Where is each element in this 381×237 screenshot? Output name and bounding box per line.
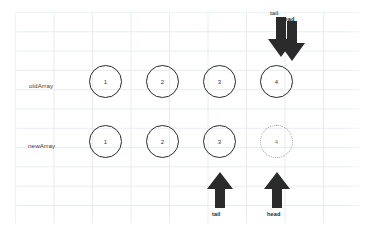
graph-paper-grid xyxy=(15,12,361,224)
head-pointer-label-bottom: head xyxy=(267,211,280,217)
tail-pointer-arrow-up xyxy=(207,172,233,208)
node-value: 4 xyxy=(275,139,278,145)
node-value: 2 xyxy=(161,79,164,85)
node-value: 4 xyxy=(275,79,278,85)
diagram-canvas: oldArray newArray 1 2 3 4 1 2 3 4 tail h… xyxy=(0,0,381,237)
oldarray-node-0: 1 xyxy=(89,65,122,98)
node-value: 2 xyxy=(161,139,164,145)
node-value: 3 xyxy=(218,79,221,85)
oldarray-node-3: 4 xyxy=(260,65,293,98)
oldarray-node-1: 2 xyxy=(146,65,179,98)
grid-fade-right xyxy=(347,0,381,237)
node-value: 3 xyxy=(218,139,221,145)
node-value: 1 xyxy=(104,79,107,85)
row-label-oldarray: oldArray xyxy=(29,82,53,89)
grid-fade-left xyxy=(0,0,20,237)
newarray-node-2: 3 xyxy=(203,125,236,158)
newarray-node-3: 4 xyxy=(260,125,293,158)
node-value: 1 xyxy=(104,139,107,145)
tail-pointer-label-bottom: tail xyxy=(212,211,220,217)
head-pointer-arrow-up xyxy=(264,172,290,208)
oldarray-node-2: 3 xyxy=(203,65,236,98)
head-pointer-label-top: head xyxy=(281,16,294,22)
newarray-node-1: 2 xyxy=(146,125,179,158)
row-label-newarray: newArray xyxy=(28,142,55,149)
grid-fade-bottom xyxy=(0,219,381,237)
newarray-node-0: 1 xyxy=(89,125,122,158)
grid-fade-top xyxy=(0,0,381,16)
head-pointer-arrow-down xyxy=(279,21,305,61)
